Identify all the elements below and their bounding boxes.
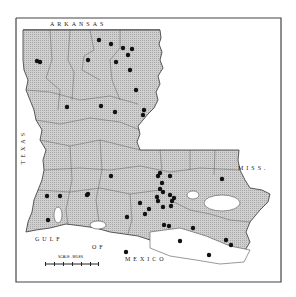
site-dot (158, 171, 162, 175)
site-dot (99, 104, 103, 108)
site-dot (138, 201, 142, 205)
site-dot (86, 58, 90, 62)
site-dot (45, 194, 49, 198)
site-dot (229, 243, 233, 247)
site-dot (168, 174, 172, 178)
site-dot (178, 239, 182, 243)
site-dot (224, 238, 228, 242)
site-dot (168, 193, 172, 197)
site-dot (142, 108, 146, 112)
site-dot (162, 223, 166, 227)
site-dot (85, 193, 89, 197)
louisiana-map (0, 0, 296, 297)
site-dot (141, 113, 145, 117)
site-dot (109, 42, 113, 46)
site-dot (134, 88, 138, 92)
site-dot (65, 105, 69, 109)
site-dot (113, 110, 117, 114)
label-miss: MISS. (238, 165, 269, 171)
label-texas: TEXAS (20, 130, 26, 164)
site-dot (156, 199, 160, 203)
site-dot (35, 59, 39, 63)
site-dot (114, 60, 118, 64)
site-dot (121, 46, 125, 50)
scale-bar (44, 261, 100, 267)
site-dot (130, 47, 134, 51)
site-dot (167, 224, 171, 228)
site-dot (155, 195, 159, 199)
label-mexico: MEXICO (125, 256, 167, 262)
site-dot (125, 215, 129, 219)
site-dot (109, 174, 113, 178)
site-dot (124, 250, 128, 254)
label-gulf: GULF (35, 236, 63, 242)
site-dot (170, 199, 174, 203)
site-dot (128, 68, 132, 72)
site-dot (143, 212, 147, 216)
site-dot (46, 218, 50, 222)
site-dot (161, 205, 165, 209)
site-dot (160, 181, 164, 185)
site-dot (58, 194, 62, 198)
site-dot (220, 177, 224, 181)
site-dot (126, 53, 130, 57)
label-arkansas: ARKANSAS (50, 21, 106, 27)
site-dot (191, 226, 195, 230)
site-dot (97, 38, 101, 42)
label-of: OF (92, 244, 106, 250)
scale-label: SCALE - MILES (58, 255, 83, 259)
site-dot (169, 204, 173, 208)
site-dot (161, 190, 165, 194)
site-dot (147, 207, 151, 211)
site-dot (207, 253, 211, 257)
